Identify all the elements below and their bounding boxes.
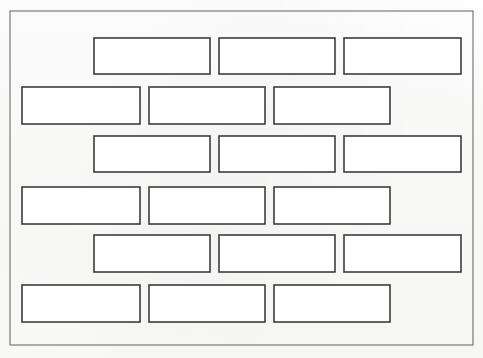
brick-r1b2 xyxy=(219,38,335,74)
brick-r2b1 xyxy=(22,87,140,124)
brick-r5b1 xyxy=(94,235,210,272)
brick-r1b1 xyxy=(94,38,210,74)
brick-r3b1 xyxy=(94,136,210,172)
brick-row-3 xyxy=(94,136,461,172)
brick-r4b3 xyxy=(274,187,390,224)
brick-r3b3 xyxy=(344,136,461,172)
brick-r5b3 xyxy=(344,235,461,272)
brick-r5b2 xyxy=(219,235,335,272)
brick-row-6 xyxy=(22,285,390,322)
brick-r4b1 xyxy=(22,187,140,224)
brick-r6b2 xyxy=(149,285,265,322)
brick-r6b1 xyxy=(22,285,140,322)
brick-r2b3 xyxy=(274,87,390,124)
brick-row-1 xyxy=(94,38,461,74)
diagram-canvas xyxy=(0,0,483,358)
brick-r3b2 xyxy=(219,136,335,172)
brick-r1b3 xyxy=(344,38,461,74)
brick-row-2 xyxy=(22,87,390,124)
brick-row-5 xyxy=(94,235,461,272)
brick-r6b3 xyxy=(274,285,390,322)
brick-row-4 xyxy=(22,187,390,224)
brick-wall-diagram xyxy=(0,0,483,358)
brick-r2b2 xyxy=(149,87,265,124)
bricks-group xyxy=(22,38,461,322)
brick-r4b2 xyxy=(149,187,265,224)
